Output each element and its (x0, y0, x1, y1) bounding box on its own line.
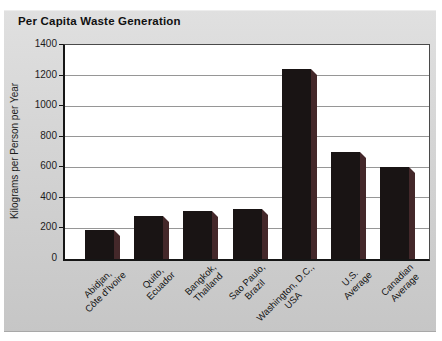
y-tick-mark-600 (59, 166, 63, 167)
chart-panel: Per Capita Waste Generation Kilograms pe… (4, 10, 436, 332)
bar-side (311, 69, 317, 259)
bar-side (212, 211, 218, 259)
y-tick-label-1400: 1400 (17, 38, 57, 50)
bar-front (331, 152, 360, 259)
gridline-800 (65, 136, 429, 137)
bar-side (163, 216, 169, 259)
y-tick-mark-1400 (59, 44, 63, 45)
bar-3 (183, 211, 218, 259)
bar-front (85, 230, 114, 259)
bar-front (380, 167, 409, 259)
y-tick-label-400: 400 (17, 191, 57, 203)
y-tick-mark-1200 (59, 75, 63, 76)
bar-4 (233, 209, 268, 259)
bar-front (134, 216, 163, 259)
bar-side (409, 167, 415, 259)
bar-front (183, 211, 212, 259)
gridline-1200 (65, 75, 429, 76)
bar-1 (85, 230, 120, 259)
y-tick-mark-1000 (59, 105, 63, 106)
y-tick-mark-400 (59, 197, 63, 198)
bar-side (262, 209, 268, 259)
bar-2 (134, 216, 169, 259)
y-tick-label-0: 0 (17, 252, 57, 264)
bar-side (114, 230, 120, 259)
y-tick-label-1000: 1000 (17, 99, 57, 111)
y-tick-label-200: 200 (17, 221, 57, 233)
bar-front (233, 209, 262, 259)
x-tick-label-1: Abidjan,Côte d'Ivoire (75, 262, 127, 314)
y-tick-label-800: 800 (17, 130, 57, 142)
gridline-600 (65, 167, 429, 168)
bar-7 (380, 167, 415, 259)
bar-front (282, 69, 311, 259)
x-tick-label-7: CanadianAverage (379, 262, 423, 306)
plot-area (63, 44, 430, 261)
y-tick-mark-200 (59, 227, 63, 228)
y-tick-label-1200: 1200 (17, 69, 57, 81)
x-tick-label-2: Quito,Ecuador (137, 262, 177, 302)
y-tick-mark-800 (59, 136, 63, 137)
y-tick-label-600: 600 (17, 160, 57, 172)
figure: Per Capita Waste Generation Kilograms pe… (0, 0, 442, 341)
x-tick-label-6: U.S.Average (334, 262, 374, 302)
gridline-400 (65, 197, 429, 198)
x-tick-label-3: Bangkok,Thailand (183, 262, 226, 305)
bar-6 (331, 152, 366, 259)
gridline-1000 (65, 106, 429, 107)
bar-side (360, 152, 366, 259)
bar-5 (282, 69, 317, 259)
chart-title: Per Capita Waste Generation (18, 15, 181, 27)
